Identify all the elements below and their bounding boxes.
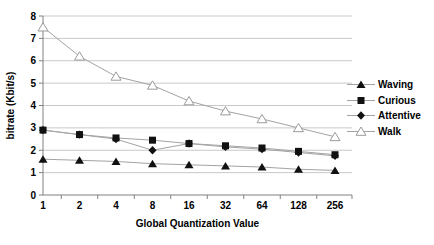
filled-diamond-icon <box>347 110 375 121</box>
legend-label-walk: Walk <box>378 126 401 137</box>
legend-label-curious: Curious <box>378 95 416 106</box>
y-tick-label: 5 <box>30 78 36 89</box>
legend-marker-curious <box>358 97 365 104</box>
open-triangle-icon <box>347 126 375 137</box>
legend-label-waving: Waving <box>378 79 413 90</box>
data-point-walk <box>38 23 48 31</box>
legend: WavingCuriousAttentiveWalk <box>347 79 421 137</box>
legend-item-curious: Curious <box>347 95 421 106</box>
y-tick-label: 1 <box>30 167 36 178</box>
data-point-curious <box>186 140 193 147</box>
x-tick-label: 1 <box>40 200 46 211</box>
chart: 0123456781248163264128256Global Quantiza… <box>0 0 434 245</box>
data-point-curious <box>332 151 339 158</box>
x-tick-label: 64 <box>256 200 268 211</box>
data-point-walk <box>184 97 194 105</box>
legend-item-walk: Walk <box>347 126 421 137</box>
y-axis-title: bitrate (Kbit/s) <box>5 72 16 140</box>
data-point-curious <box>222 142 229 149</box>
y-tick-label: 2 <box>30 145 36 156</box>
x-tick-label: 8 <box>150 200 156 211</box>
x-tick-label: 128 <box>290 200 307 211</box>
data-point-attentive <box>149 146 157 154</box>
y-tick-label: 3 <box>30 122 36 133</box>
x-tick-label: 32 <box>220 200 232 211</box>
filled-square-icon <box>347 95 375 106</box>
y-tick-label: 6 <box>30 55 36 66</box>
x-tick-label: 2 <box>77 200 83 211</box>
data-point-curious <box>40 127 47 134</box>
data-point-curious <box>149 137 156 144</box>
legend-label-attentive: Attentive <box>378 110 421 121</box>
legend-item-attentive: Attentive <box>347 110 421 121</box>
series-line-walk <box>43 27 335 137</box>
x-tick-label: 16 <box>183 200 195 211</box>
data-point-walk <box>111 72 121 80</box>
legend-marker-attentive <box>357 111 365 119</box>
data-point-curious <box>295 148 302 155</box>
x-tick-label: 256 <box>327 200 344 211</box>
y-tick-label: 7 <box>30 33 36 44</box>
y-tick-label: 4 <box>30 100 36 111</box>
legend-item-waving: Waving <box>347 79 421 90</box>
data-point-curious <box>113 134 120 141</box>
data-point-walk <box>221 107 231 115</box>
y-tick-label: 0 <box>30 190 36 201</box>
x-tick-label: 4 <box>113 200 119 211</box>
filled-triangle-icon <box>347 79 375 90</box>
x-axis-title: Global Quantization Value <box>136 218 260 229</box>
data-point-curious <box>259 145 266 152</box>
y-tick-label: 8 <box>30 11 36 22</box>
data-point-curious <box>76 131 83 138</box>
